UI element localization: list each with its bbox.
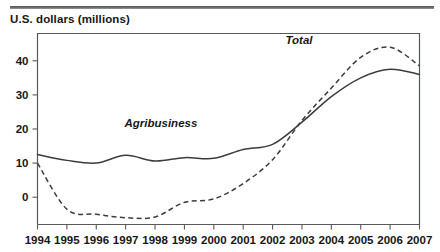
figure-container: U.S. dollars (millions) 0102030401994199…	[0, 0, 440, 252]
series-line-total	[38, 47, 420, 219]
y-tick-label: 0	[22, 191, 28, 203]
x-tick-label: 1997	[113, 234, 139, 246]
x-tick-label: 1994	[25, 234, 51, 246]
x-tick-label: 2005	[348, 234, 374, 246]
x-tick-label: 2004	[319, 234, 345, 246]
x-tick-label: 2007	[407, 234, 433, 246]
y-tick-label: 40	[16, 55, 29, 67]
x-tick-label: 2000	[201, 234, 227, 246]
series-line-agribusiness	[38, 69, 420, 163]
line-chart-plot: 0102030401994199519961997199819992000200…	[0, 0, 440, 252]
y-tick-label: 30	[16, 89, 29, 101]
x-tick-label: 1998	[142, 234, 168, 246]
x-tick-label: 2001	[230, 234, 256, 246]
x-tick-label: 1999	[172, 234, 198, 246]
series-annotation-total: Total	[285, 34, 313, 46]
x-tick-label: 1996	[83, 234, 109, 246]
x-tick-label: 2006	[377, 234, 403, 246]
y-tick-label: 10	[16, 157, 29, 169]
x-tick-label: 1995	[54, 234, 80, 246]
x-tick-label: 2003	[289, 234, 315, 246]
plot-frame	[38, 34, 420, 225]
series-annotation-agribusiness: Agribusiness	[123, 117, 197, 129]
x-tick-label: 2002	[260, 234, 286, 246]
y-tick-label: 20	[16, 123, 29, 135]
